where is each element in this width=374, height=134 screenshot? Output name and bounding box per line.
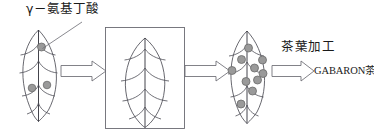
- leaf-vein-8: [247, 105, 259, 116]
- gaba-dot: [238, 56, 246, 64]
- gaba-dot: [43, 81, 51, 89]
- leaf-vein-3: [121, 68, 145, 81]
- stage-2-anaerobic-treatment: [106, 28, 185, 129]
- gaba-dot: [242, 78, 250, 86]
- leaf-vein-8: [145, 107, 161, 119]
- gaba-dot: [259, 70, 267, 78]
- gaba-label: γ－氨基丁酸: [26, 3, 100, 16]
- gaba-pointer-line: [43, 22, 83, 49]
- arrow-stage2-to-stage3: [185, 61, 230, 81]
- stage-3-gaba-enriched-leaf: [228, 31, 267, 124]
- leaf-vein-3: [20, 61, 39, 73]
- leaf-vein-7: [129, 107, 145, 119]
- diagram-canvas: γ－氨基丁酸 茶葉加工 GABARON茶: [0, 0, 374, 134]
- gaba-dot: [245, 44, 253, 52]
- gabaron-tea-label: GABARON茶: [314, 66, 374, 77]
- gaba-dot: [28, 84, 36, 92]
- leaf-vein-1: [21, 44, 39, 55]
- gaba-dot: [259, 56, 267, 64]
- tea-processing-label: 茶葉加工: [281, 41, 335, 54]
- gaba-dot: [228, 67, 236, 75]
- leaf-vein-4: [145, 68, 169, 81]
- arrow-stage3-to-product: [272, 61, 314, 81]
- leaf-vein-2: [145, 49, 166, 60]
- leaf-vein-1: [229, 45, 247, 56]
- stage-1-fresh-leaf: [20, 30, 58, 122]
- gaba-dot: [237, 100, 245, 108]
- leaf-vein-1: [125, 49, 146, 60]
- leaf-vein-8: [39, 103, 51, 114]
- gaba-dot: [254, 76, 262, 84]
- gaba-dot: [251, 64, 259, 72]
- arrow-stage1-to-stage2: [61, 61, 106, 81]
- gaba-dot: [249, 87, 257, 95]
